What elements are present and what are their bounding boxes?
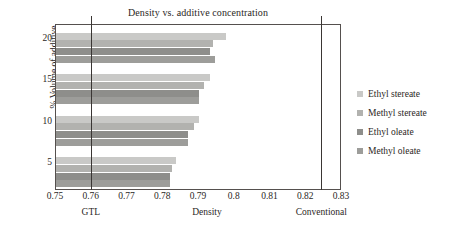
legend-label: Methyl oleate — [368, 146, 421, 156]
chart-legend: Ethyl stereateMethyl stereateEthyl oleat… — [357, 84, 449, 160]
bar — [56, 139, 188, 146]
legend-item: Methyl oleate — [357, 141, 449, 160]
bar — [56, 48, 210, 55]
x-axis-note-density: Density — [162, 207, 252, 217]
x-tick-label: 0.79 — [178, 191, 218, 201]
x-axis-tick-labels: 0.750.760.770.780.790.80.810.820.83 — [0, 191, 449, 207]
y-tick-label: 5 — [28, 157, 52, 167]
legend-swatch-icon — [357, 110, 363, 116]
bar — [56, 116, 199, 123]
reference-line-gtl — [91, 16, 92, 190]
bar — [56, 131, 188, 138]
x-tick-label: 0.8 — [214, 191, 254, 201]
y-axis-tick-labels: 5101520 — [26, 24, 52, 190]
legend-item: Ethyl stereate — [357, 84, 449, 103]
x-tick-label: 0.76 — [71, 191, 111, 201]
bar — [56, 33, 226, 40]
legend-item: Ethyl oleate — [357, 122, 449, 141]
bar — [56, 74, 210, 81]
bar — [56, 97, 199, 104]
bar — [56, 40, 213, 47]
bar — [56, 123, 194, 130]
x-tick-label: 0.77 — [107, 191, 147, 201]
bar — [56, 180, 170, 187]
bar — [56, 157, 176, 164]
x-tick-label: 0.82 — [285, 191, 325, 201]
x-tick-label: 0.83 — [321, 191, 361, 201]
legend-swatch-icon — [357, 91, 363, 97]
x-tick-label: 0.81 — [250, 191, 290, 201]
plot-area — [55, 24, 341, 190]
x-tick-label: 0.78 — [142, 191, 182, 201]
x-axis-annotations: GTLDensityConventional — [0, 207, 449, 223]
x-tick-label: 0.75 — [35, 191, 75, 201]
legend-label: Ethyl oleate — [368, 127, 414, 137]
reference-line-conventional — [321, 16, 322, 190]
bars-layer — [56, 25, 340, 189]
y-tick-label: 15 — [28, 74, 52, 84]
chart-title: Density vs. additive concentration — [55, 7, 341, 18]
legend-label: Methyl stereate — [368, 108, 427, 118]
legend-label: Ethyl stereate — [368, 89, 420, 99]
bar — [56, 165, 172, 172]
bar — [56, 173, 170, 180]
bar — [56, 82, 204, 89]
y-tick-label: 10 — [28, 116, 52, 126]
bar — [56, 56, 215, 63]
legend-swatch-icon — [357, 129, 363, 135]
legend-item: Methyl stereate — [357, 103, 449, 122]
y-tick-label: 20 — [28, 33, 52, 43]
chart-page: Density vs. additive concentration % Vol… — [0, 0, 449, 235]
bar — [56, 90, 199, 97]
legend-swatch-icon — [357, 148, 363, 154]
x-axis-note-gtl: GTL — [46, 207, 136, 217]
x-axis-note-conventional: Conventional — [276, 207, 366, 217]
